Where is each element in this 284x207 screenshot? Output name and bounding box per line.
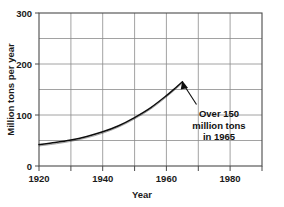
y-axis-ticks bbox=[35, 13, 39, 166]
x-tick-label-1960: 1960 bbox=[156, 173, 177, 184]
x-axis-title: Year bbox=[132, 189, 152, 200]
y-tick-label-100: 100 bbox=[16, 110, 32, 121]
x-axis-ticks bbox=[39, 166, 262, 171]
annotation-line-1: Over 150 bbox=[199, 108, 239, 119]
x-tick-label-1920: 1920 bbox=[28, 173, 49, 184]
y-tick-label-0: 0 bbox=[27, 161, 32, 172]
y-tick-label-300: 300 bbox=[16, 8, 32, 19]
annotation-line-2: million tons bbox=[192, 120, 245, 131]
chart-figure: 300 200 100 0 1920 1940 1960 1980 Year M… bbox=[0, 0, 284, 207]
annotation-line-3: in 1965 bbox=[203, 131, 236, 142]
y-axis-title: Million tons per year bbox=[5, 43, 16, 136]
y-tick-label-200: 200 bbox=[16, 59, 32, 70]
x-tick-label-1980: 1980 bbox=[220, 173, 241, 184]
chart-canvas: 300 200 100 0 1920 1940 1960 1980 Year M… bbox=[0, 0, 284, 207]
x-tick-label-1940: 1940 bbox=[92, 173, 113, 184]
